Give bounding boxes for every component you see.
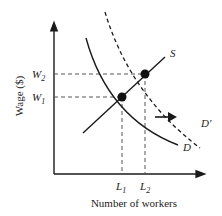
- x-axis-label: Number of workers: [91, 197, 177, 209]
- right-arrow-icon: [155, 112, 177, 122]
- demand-label: D: [182, 141, 191, 153]
- labor-market-diagram: S D D′ W2 W1 L1 L2 Number of workers Wag…: [0, 0, 222, 216]
- w2-label: W2: [32, 68, 45, 83]
- new-demand-curve: [105, 12, 200, 148]
- axes: [54, 26, 201, 174]
- demand-curve: [86, 38, 178, 145]
- l1-label: L1: [115, 180, 126, 195]
- l2-label: L2: [139, 180, 150, 195]
- y-axis-label: Wage ($): [13, 75, 26, 116]
- new-demand-label: D′: [200, 117, 212, 129]
- w1-label: W1: [32, 91, 45, 106]
- equilibrium-point-1: [118, 93, 127, 102]
- supply-label: S: [170, 47, 176, 59]
- equilibrium-point-2: [141, 70, 150, 79]
